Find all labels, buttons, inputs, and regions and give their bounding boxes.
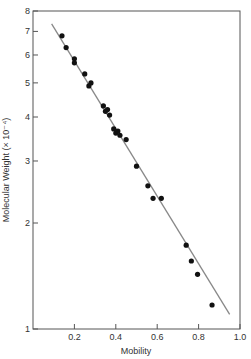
data-point — [105, 107, 110, 112]
x-tick-label: 0.8 — [192, 332, 205, 342]
y-tick-label: 4 — [25, 112, 30, 122]
data-point — [209, 302, 214, 307]
x-tick-label: 0.2 — [68, 332, 81, 342]
data-point — [189, 258, 194, 263]
data-point — [101, 103, 106, 108]
data-point — [145, 183, 150, 188]
data-point — [195, 272, 200, 277]
y-axis-title: Molecular Weight (× 10⁻⁴) — [1, 118, 11, 223]
y-tick-label: 8 — [25, 6, 30, 16]
data-point — [159, 196, 164, 201]
chart-figure: 12345678 0.20.40.60.81.0 Mobility Molecu… — [0, 0, 251, 359]
data-point — [107, 113, 112, 118]
data-point — [134, 164, 139, 169]
y-tick-label: 7 — [25, 26, 30, 36]
data-point — [150, 196, 155, 201]
y-tick-label: 3 — [25, 156, 30, 166]
data-point — [184, 243, 189, 248]
data-point — [124, 137, 129, 142]
data-point — [64, 45, 69, 50]
y-tick-label: 2 — [25, 218, 30, 228]
data-points — [59, 33, 214, 307]
x-tick-label: 0.6 — [151, 332, 164, 342]
data-point — [117, 133, 122, 138]
y-tick-label: 6 — [25, 50, 30, 60]
x-axis-title: Mobility — [121, 346, 152, 356]
data-point — [72, 60, 77, 65]
x-tick-label: 0.4 — [110, 332, 123, 342]
x-axis: 0.20.40.60.81.0 — [68, 324, 246, 342]
y-axis: 12345678 — [25, 6, 38, 334]
x-tick-label: 1.0 — [234, 332, 247, 342]
regression-line — [52, 24, 230, 314]
y-tick-label: 1 — [25, 324, 30, 334]
data-point — [59, 33, 64, 38]
data-point — [82, 71, 87, 76]
fit-line — [52, 24, 230, 314]
data-point — [88, 80, 93, 85]
y-tick-label: 5 — [25, 78, 30, 88]
